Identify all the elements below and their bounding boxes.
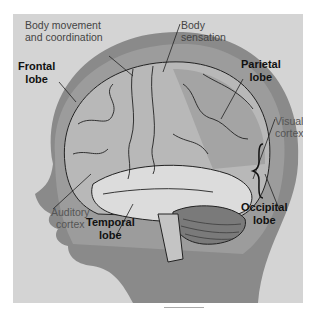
label-line: lobe (18, 73, 55, 86)
label-body-sensation: Body sensation (181, 19, 226, 43)
label-line: cortex (275, 127, 303, 139)
label-line: Body movement (25, 19, 103, 31)
label-line: cortex (51, 218, 90, 230)
divider (164, 307, 204, 308)
label-line: lobe (86, 229, 135, 242)
label-frontal-lobe: Frontal lobe (18, 60, 55, 86)
label-line: lobe (241, 214, 287, 227)
label-line: Frontal (18, 60, 55, 73)
label-line: Temporal (86, 216, 135, 229)
label-auditory-cortex: Auditory cortex (51, 206, 90, 230)
label-line: Parietal (241, 58, 281, 71)
label-line: and coordination (25, 31, 103, 43)
diagram-panel: Body movement and coordination Body sens… (13, 14, 303, 303)
label-occipital-lobe: Occipital lobe (241, 201, 287, 227)
label-body-movement: Body movement and coordination (25, 19, 103, 43)
label-line: lobe (241, 71, 281, 84)
label-visual-cortex: Visual cortex (275, 115, 303, 139)
label-parietal-lobe: Parietal lobe (241, 58, 281, 84)
label-line: sensation (181, 31, 226, 43)
label-temporal-lobe: Temporal lobe (86, 216, 135, 242)
label-line: Visual (275, 115, 303, 127)
label-line: Body (181, 19, 226, 31)
label-line: Occipital (241, 201, 287, 214)
label-line: Auditory (51, 206, 90, 218)
